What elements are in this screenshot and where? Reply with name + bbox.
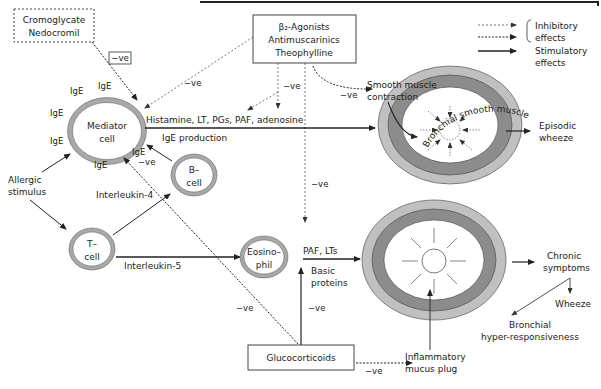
legend: Inhibitory effects Stimulatory effects	[478, 20, 588, 68]
svg-text:phil: phil	[256, 260, 272, 270]
smooth-muscle-label: Smooth muscle	[367, 80, 437, 90]
neg-label: −ve	[365, 366, 382, 376]
svg-text:cell: cell	[186, 178, 202, 188]
theophylline-label: Theophylline	[274, 48, 333, 58]
stimulus-to-mediator-arrow	[42, 154, 70, 172]
airway-chronic	[362, 200, 506, 320]
ige-label: IgE	[50, 108, 63, 118]
basic-proteins-label-2: proteins	[311, 278, 348, 288]
cromo-inhibit-arrow	[92, 42, 137, 100]
cromoglycate-label: Cromoglycate	[23, 15, 86, 25]
neg-label: −ve	[311, 179, 328, 189]
wheeze-label: wheeze	[539, 133, 574, 143]
svg-text:cell: cell	[99, 134, 115, 144]
chronic-to-bhr-arrow	[512, 278, 570, 315]
wheeze-label: Wheeze	[555, 299, 591, 309]
bhr-label: Bronchial	[509, 320, 551, 330]
mediators-label: Histamine, LT, PGs, PAF, adenosine	[146, 115, 304, 125]
antimuscarinics-label: Antimuscarinics	[268, 35, 340, 45]
broncho-to-mediator-arrow	[145, 37, 253, 108]
interleukin4-label: Interleukin-4	[96, 190, 154, 200]
paf-lts-label: PAF, LTs	[303, 246, 338, 256]
glucocorticoids-box: Glucocorticoids	[248, 345, 354, 370]
allergic-stimulus-label-2: stimulus	[8, 187, 46, 197]
broncho-to-smooth-muscle-arrow	[313, 66, 372, 89]
ige-label: IgE	[94, 160, 107, 170]
ige-label: IgE	[50, 136, 63, 146]
neg-label: −ve	[340, 90, 357, 100]
legend-inhibitory-label: Inhibitory	[535, 21, 579, 31]
neg-label: −ve	[308, 303, 325, 313]
eosinophil-cell: Eosino– phil	[240, 236, 288, 278]
basic-proteins-label: Basic	[311, 266, 335, 276]
svg-text:cell: cell	[84, 252, 100, 262]
mucus-plug-label-2: mucus plug	[405, 364, 457, 374]
ige-label: IgE	[70, 86, 83, 96]
episodic-wheeze-label: Episodic	[539, 121, 576, 131]
contraction-label: contraction	[367, 92, 418, 102]
legend-effects-label: effects	[535, 58, 566, 68]
ige-label: IgE	[132, 147, 145, 157]
neg-label: −ve	[138, 157, 155, 167]
b-cell: B– cell	[171, 154, 217, 196]
ige-label: IgE	[98, 81, 111, 91]
beta2-agonists-label: β₂-Agonists	[278, 22, 329, 32]
interleukin5-label: Interleukin-5	[124, 261, 181, 271]
nedocromil-label: Nedocromil	[28, 28, 79, 38]
asthma-pathophysiology-diagram: Cromoglycate Nedocromil −ve β₂-Agonists …	[0, 0, 601, 389]
tcell-to-bcell-arrow	[113, 194, 170, 235]
broncho-branch-arrow	[248, 92, 278, 110]
mucus-plug-label: Inflammatory	[405, 352, 466, 362]
neg-label: −ve	[283, 81, 300, 91]
bronchodilators-box: β₂-Agonists Antimuscarinics Theophylline	[253, 15, 356, 63]
ige-production-label: IgE production	[162, 133, 227, 143]
top-border-line	[200, 2, 598, 6]
legend-stimulatory-label: Stimulatory	[535, 46, 588, 56]
svg-text:Eosino–: Eosino–	[247, 247, 282, 257]
svg-text:T–: T–	[86, 239, 97, 249]
neg-label: −ve	[184, 78, 201, 88]
symptoms-label: symptoms	[543, 263, 590, 273]
cromo-neg-box: −ve	[109, 52, 131, 64]
svg-text:Glucocorticoids: Glucocorticoids	[266, 353, 335, 363]
cromoglycate-box: Cromoglycate Nedocromil	[14, 9, 94, 42]
stimulus-to-tcell-arrow	[30, 200, 66, 229]
allergic-stimulus-label: Allergic	[8, 175, 41, 185]
svg-text:Mediator: Mediator	[87, 121, 127, 131]
svg-text:−ve: −ve	[111, 53, 128, 63]
t-cell: T– cell	[69, 228, 115, 270]
neg-label: −ve	[236, 303, 253, 313]
svg-text:B–: B–	[189, 165, 200, 175]
chronic-symptoms-label: Chronic	[547, 251, 581, 261]
hyper-responsiveness-label: hyper-responsiveness	[481, 332, 579, 342]
legend-effects-label: effects	[535, 33, 566, 43]
